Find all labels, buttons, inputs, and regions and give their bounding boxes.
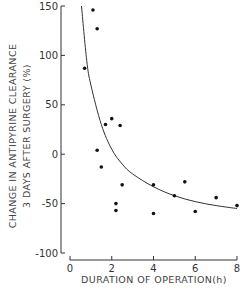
y-tick-label: -50 — [42, 198, 58, 209]
data-point — [214, 196, 218, 200]
x-tick-label: 6 — [192, 263, 198, 274]
data-point — [114, 202, 118, 206]
data-point — [110, 117, 114, 121]
x-axis-title: DURATION OF OPERATION(h) — [81, 274, 227, 285]
data-point — [95, 148, 99, 152]
scatter-chart: CHANGE IN ANTIPYRINE CLEARANCE 3 DAYS AF… — [0, 0, 244, 294]
data-point — [100, 165, 104, 169]
x-tick-label: 4 — [150, 263, 156, 274]
data-point — [118, 124, 122, 128]
x-tick-label: 8 — [234, 263, 240, 274]
y-axis-title-line2: 3 DAYS AFTER SURGERY (%) — [21, 64, 32, 208]
y-tick-label: -100 — [35, 248, 58, 259]
data-point — [152, 183, 156, 187]
y-tick-label: 50 — [45, 99, 58, 110]
y-axis-title-line1: CHANGE IN ANTIPYRINE CLEARANCE — [7, 44, 18, 229]
data-point — [104, 123, 108, 127]
data-point — [91, 8, 95, 12]
y-tick-label: 150 — [39, 1, 58, 12]
y-tick-label: 100 — [39, 50, 58, 61]
data-point — [173, 194, 177, 198]
data-point — [83, 66, 87, 70]
x-axis: 02468 — [67, 256, 240, 274]
data-points — [83, 8, 239, 215]
data-point — [193, 210, 197, 214]
x-tick-label: 2 — [109, 263, 115, 274]
data-point — [183, 180, 187, 184]
data-point — [235, 204, 239, 208]
data-point — [152, 212, 156, 216]
data-point — [114, 209, 118, 213]
data-point — [120, 183, 124, 187]
fitted-curve — [81, 6, 237, 209]
x-tick-label: 0 — [67, 263, 73, 274]
y-tick-label: 0 — [52, 149, 58, 160]
data-point — [95, 27, 99, 31]
y-axis: 150100500-50-100 — [35, 1, 65, 259]
y-axis-title: CHANGE IN ANTIPYRINE CLEARANCE 3 DAYS AF… — [7, 44, 32, 229]
